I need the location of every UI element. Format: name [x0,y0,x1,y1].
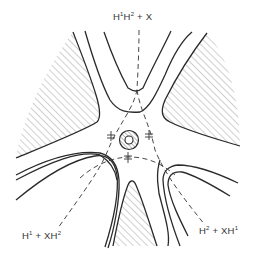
saddle-marker-bottom [124,152,132,163]
potential-energy-surface-diagram [0,0,254,261]
label-top-asymptote: H1H2 + X [113,11,152,22]
hatched-region-upper-right [162,33,240,146]
central-well [120,131,139,150]
saddle-marker-upper-right [145,130,153,140]
hatched-region-upper-left [16,32,100,158]
label-bottom-right-asymptote: H2 + XH1 [199,225,238,236]
saddle-marker-upper-left [107,131,115,141]
label-bottom-left-asymptote: H1 + XH2 [22,230,61,241]
